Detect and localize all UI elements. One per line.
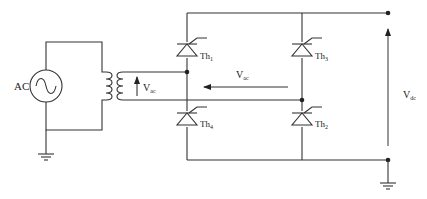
output-terminal-positive: [386, 11, 391, 16]
ac-source-loop: [46, 42, 106, 130]
ac-source-sine-icon: [30, 70, 62, 102]
th1-label: Th1: [200, 51, 213, 62]
vdc-label: Vdc: [403, 89, 416, 101]
th2-label: Th2: [315, 119, 328, 130]
ac-source-label: AC: [14, 80, 29, 92]
th4-label: Th4: [200, 119, 213, 130]
vac-secondary-label: Vac: [143, 82, 156, 94]
junction-dot: [185, 70, 190, 75]
rectifier-circuit-diagram: AC Vac Th1 Th3: [0, 0, 427, 199]
transformer-coil-icon: [106, 72, 123, 100]
junction-dot: [300, 98, 305, 103]
output-ground-icon: [380, 160, 396, 189]
vac-bridge-label: Vac: [236, 69, 249, 81]
th3-label: Th3: [315, 51, 328, 62]
source-ground-icon: [38, 130, 54, 160]
